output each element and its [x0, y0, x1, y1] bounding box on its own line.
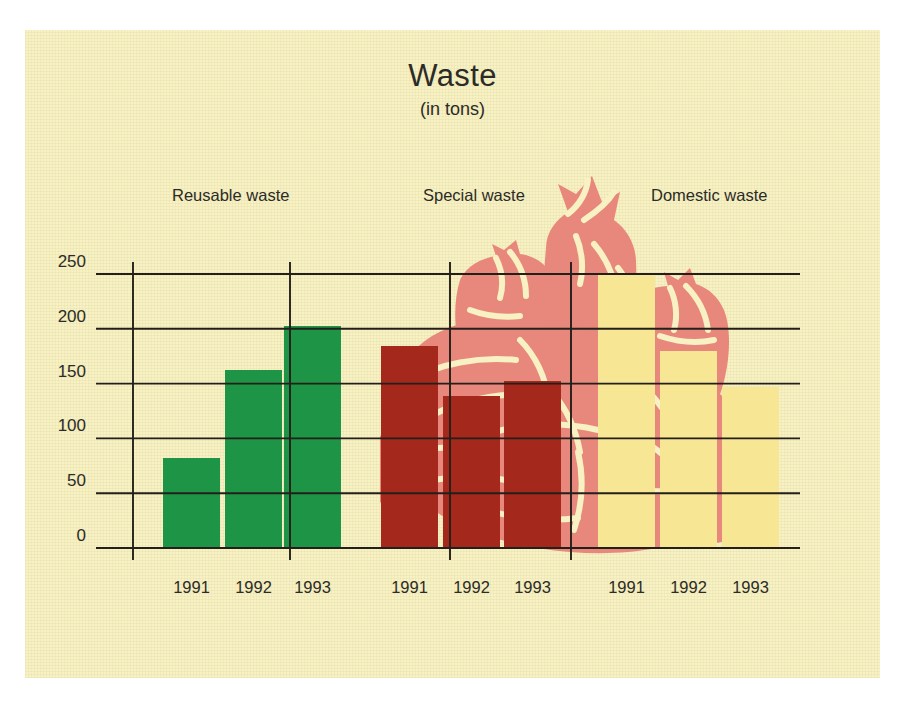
- bar-reusable-waste-1991: [163, 458, 220, 548]
- x-tick-label-domestic-waste-1992: 1992: [654, 578, 724, 597]
- bar-domestic-waste-1992: [660, 351, 717, 548]
- bar-domestic-waste-1991: [598, 273, 655, 548]
- y-tick-label-0: 0: [40, 526, 86, 546]
- chart-subtitle: (in tons): [0, 99, 905, 120]
- x-tick-label-reusable-waste-1991: 1991: [157, 578, 227, 597]
- x-tick-label-reusable-waste-1993: 1993: [278, 578, 348, 597]
- x-tick-label-special-waste-1993: 1993: [498, 578, 568, 597]
- poster-canvas: Reusable waste Special waste Domestic wa…: [0, 0, 905, 705]
- group-label-reusable-waste: Reusable waste: [172, 186, 289, 205]
- bar-domestic-waste-1993: [722, 387, 779, 548]
- y-tick-label-50: 50: [40, 471, 86, 491]
- y-tick-label-250: 250: [40, 252, 86, 272]
- x-tick-label-special-waste-1991: 1991: [375, 578, 445, 597]
- bar-reusable-waste-1993: [284, 326, 341, 548]
- x-tick-label-domestic-waste-1991: 1991: [592, 578, 662, 597]
- bar-special-waste-1992: [443, 396, 500, 548]
- group-label-domestic-waste: Domestic waste: [651, 186, 767, 205]
- chart-title: Waste: [0, 58, 905, 94]
- bar-reusable-waste-1992: [225, 370, 282, 548]
- y-tick-label-100: 100: [40, 416, 86, 436]
- bar-special-waste-1993: [504, 381, 561, 548]
- x-tick-label-special-waste-1992: 1992: [437, 578, 507, 597]
- x-tick-label-domestic-waste-1993: 1993: [716, 578, 786, 597]
- group-label-special-waste: Special waste: [423, 186, 525, 205]
- bar-special-waste-1991: [381, 346, 438, 548]
- y-tick-label-150: 150: [40, 362, 86, 382]
- y-tick-label-200: 200: [40, 307, 86, 327]
